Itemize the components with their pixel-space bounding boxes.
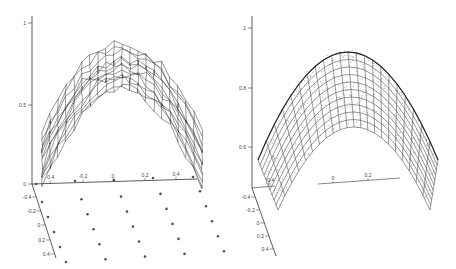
x-axis-tick-label: -0.2 xyxy=(79,173,88,179)
data-point xyxy=(424,197,425,198)
data-point xyxy=(369,58,370,59)
data-point xyxy=(373,63,374,64)
data-point xyxy=(278,122,279,123)
data-point xyxy=(268,161,269,162)
data-point xyxy=(400,114,401,115)
data-point xyxy=(340,98,341,99)
data-point xyxy=(430,145,431,146)
data-point xyxy=(305,135,306,136)
data-point xyxy=(368,60,369,61)
data-point xyxy=(424,186,425,187)
data-point xyxy=(381,84,382,85)
data-point xyxy=(422,185,423,186)
data-point xyxy=(386,90,387,91)
data-point xyxy=(285,104,286,105)
data-point xyxy=(282,150,283,151)
data-point xyxy=(398,117,399,118)
data-point xyxy=(429,190,430,191)
sample-point xyxy=(53,231,56,234)
data-point xyxy=(421,156,422,157)
data-point xyxy=(300,106,301,107)
data-point xyxy=(284,157,285,158)
y-axis-tick-label: -0.2 xyxy=(27,208,36,214)
data-point xyxy=(381,72,382,73)
data-point xyxy=(342,93,343,94)
data-point xyxy=(426,139,427,140)
data-point xyxy=(349,52,350,53)
data-point xyxy=(325,93,326,94)
sample-point xyxy=(211,220,214,223)
data-point xyxy=(362,95,363,96)
z-axis-tick-label: 0.6 xyxy=(239,144,246,150)
data-point xyxy=(274,158,275,159)
data-point xyxy=(333,76,334,77)
data-point xyxy=(360,115,361,116)
data-point xyxy=(271,140,272,141)
data-point xyxy=(309,78,310,79)
data-point xyxy=(403,93,404,94)
data-point xyxy=(338,84,339,85)
data-point xyxy=(410,158,411,159)
data-point xyxy=(409,125,410,126)
sample-point xyxy=(41,201,44,204)
z-axis-tick-label: 1 xyxy=(243,25,246,31)
data-point xyxy=(287,120,288,121)
sample-point xyxy=(35,183,38,186)
data-point xyxy=(321,83,322,84)
data-point xyxy=(396,149,397,150)
data-point xyxy=(284,107,285,108)
data-point xyxy=(349,94,350,95)
x-axis-tick-label: 0.2 xyxy=(142,172,149,178)
data-point xyxy=(421,150,422,151)
data-point xyxy=(269,150,270,151)
z-axis-tick-label: 0 xyxy=(23,181,26,187)
data-point xyxy=(395,121,396,122)
data-point xyxy=(436,170,437,171)
data-point xyxy=(410,172,411,173)
data-point xyxy=(290,105,291,106)
data-point xyxy=(391,104,392,105)
data-point xyxy=(305,75,306,76)
data-point xyxy=(389,135,390,136)
data-point xyxy=(405,125,406,126)
data-point xyxy=(280,139,281,140)
data-point xyxy=(420,123,421,124)
data-point xyxy=(357,114,358,115)
data-point xyxy=(265,173,266,174)
data-point xyxy=(429,169,430,170)
sample-point xyxy=(171,223,174,226)
data-point xyxy=(376,111,377,112)
data-point xyxy=(349,65,350,66)
data-point xyxy=(337,130,338,131)
data-point xyxy=(361,124,362,125)
data-point xyxy=(406,130,407,131)
data-point xyxy=(426,145,427,146)
data-point xyxy=(340,55,341,56)
data-point xyxy=(374,94,375,95)
data-point xyxy=(307,118,308,119)
data-point xyxy=(347,81,348,82)
data-point xyxy=(297,121,298,122)
data-point xyxy=(349,103,350,104)
data-point xyxy=(347,55,348,56)
data-point xyxy=(301,123,302,124)
data-point xyxy=(275,193,276,194)
data-point xyxy=(315,130,316,131)
data-point xyxy=(263,158,264,159)
data-point xyxy=(329,135,330,136)
data-point xyxy=(355,111,356,112)
data-point xyxy=(290,94,291,95)
data-point xyxy=(360,62,361,63)
wireframe-surface xyxy=(41,41,202,189)
data-point xyxy=(333,60,334,61)
data-point xyxy=(395,134,396,135)
data-point xyxy=(307,103,308,104)
data-point xyxy=(314,84,315,85)
data-point xyxy=(343,95,344,96)
y-axis-tick-label: -0.2 xyxy=(246,207,255,213)
data-point xyxy=(290,155,291,156)
mesh-line xyxy=(41,132,42,187)
data-point xyxy=(406,107,407,108)
data-point xyxy=(280,190,281,191)
data-point xyxy=(305,111,306,112)
